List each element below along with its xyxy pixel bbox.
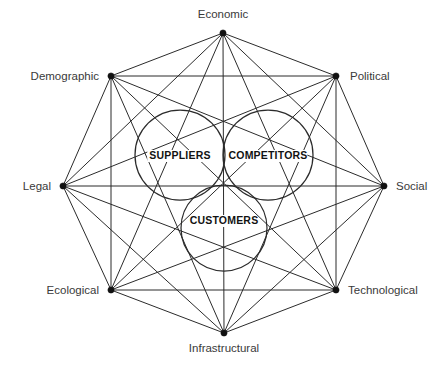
node-dot-legal bbox=[60, 183, 66, 189]
node-dot-technological bbox=[333, 287, 339, 293]
node-dot-demographic bbox=[108, 73, 114, 79]
node-label-economic: Economic bbox=[198, 8, 249, 20]
ring-label-competitors: COMPETITORS bbox=[228, 149, 307, 161]
node-dot-ecological bbox=[108, 287, 114, 293]
node-label-social: Social bbox=[396, 180, 427, 192]
node-label-legal: Legal bbox=[23, 180, 51, 192]
ring-label-customers: CUSTOMERS bbox=[190, 214, 259, 226]
node-label-demographic: Demographic bbox=[31, 70, 100, 82]
ring-label-suppliers: SUPPLIERS bbox=[149, 149, 210, 161]
node-dot-economic bbox=[220, 30, 226, 36]
node-dot-social bbox=[381, 183, 387, 189]
business-environment-diagram: SUPPLIERSCOMPETITORSCUSTOMERS EconomicPo… bbox=[0, 0, 447, 365]
node-label-technological: Technological bbox=[348, 284, 418, 296]
node-dot-political bbox=[333, 73, 339, 79]
node-dot-infrastructural bbox=[221, 330, 227, 336]
node-label-infrastructural: Infrastructural bbox=[189, 342, 259, 354]
diagram-root: SUPPLIERSCOMPETITORSCUSTOMERS EconomicPo… bbox=[0, 0, 447, 365]
node-label-political: Political bbox=[350, 70, 390, 82]
node-label-ecological: Ecological bbox=[47, 284, 99, 296]
